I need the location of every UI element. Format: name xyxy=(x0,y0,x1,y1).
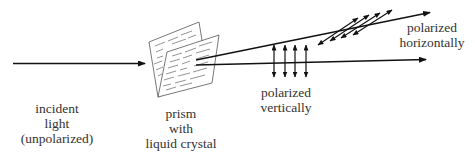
label-line: horizontally xyxy=(390,35,474,50)
label-line: light xyxy=(12,116,102,131)
liquid-crystal-prism-icon xyxy=(149,22,219,97)
vertically-polarized-ray-arrow xyxy=(196,60,426,66)
label-line: with xyxy=(136,121,226,136)
incident-light-label: incident light (unpolarized) xyxy=(12,101,102,146)
polarized-horizontally-label: polarized horizontally xyxy=(390,20,474,50)
label-line: liquid crystal xyxy=(136,136,226,151)
polarization-diagram: incident light (unpolarized) prism with … xyxy=(0,0,475,161)
label-line: vertically xyxy=(256,100,316,115)
label-line: incident xyxy=(12,101,102,116)
prism-label: prism with liquid crystal xyxy=(136,106,226,151)
polarized-vertically-label: polarized vertically xyxy=(256,85,316,115)
vertical-polarization-arrows-icon xyxy=(274,45,306,77)
label-line: (unpolarized) xyxy=(12,131,102,146)
label-line: polarized xyxy=(256,85,316,100)
label-line: polarized xyxy=(390,20,474,35)
label-line: prism xyxy=(136,106,226,121)
